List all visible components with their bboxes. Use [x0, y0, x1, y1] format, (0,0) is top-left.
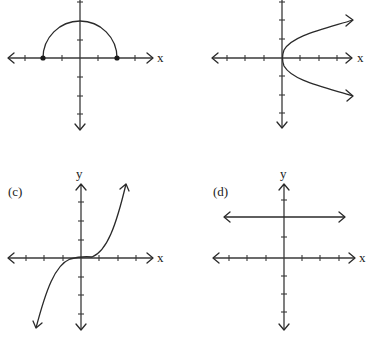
panel-label: (c) [8, 184, 22, 199]
y-axis-label: y [280, 166, 287, 181]
panel-c: (c) y x [8, 166, 164, 330]
x-axis-label: x [157, 250, 164, 265]
closed-endpoint-left [40, 55, 45, 60]
x-axis-label: x [359, 250, 366, 265]
panel-d: (d) y x [213, 166, 366, 330]
graph-figure: x x [0, 0, 369, 342]
panel-a: x [8, 0, 164, 130]
x-axis-label: x [357, 50, 364, 65]
x-axis-label: x [157, 50, 164, 65]
closed-endpoint-right [114, 55, 119, 60]
panel-b: x [212, 0, 364, 128]
panel-label: (d) [213, 184, 228, 199]
y-axis-label: y [76, 166, 83, 181]
